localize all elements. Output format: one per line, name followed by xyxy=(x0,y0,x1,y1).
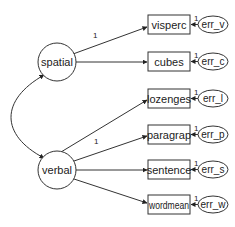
latent-spatial[interactable]: spatial xyxy=(38,43,76,81)
error-err_l[interactable]: 1 err_l xyxy=(191,88,228,107)
observed-paragrap-label: paragrap xyxy=(147,129,191,141)
latent-spatial-label: spatial xyxy=(41,56,73,68)
error-label-err_s: err_s xyxy=(202,164,225,175)
path-verbal-wordmean xyxy=(74,179,147,203)
error-err_v[interactable]: 1 err_v xyxy=(191,14,228,33)
latent-verbal[interactable]: verbal xyxy=(38,151,76,189)
error-label-err_w: err_w xyxy=(200,199,226,210)
observed-visperc-label: visperc xyxy=(152,19,187,31)
error-label-err_p: err_p xyxy=(201,129,225,140)
latent-verbal-label: verbal xyxy=(42,164,72,176)
loading-label-visperc: 1 xyxy=(93,31,98,40)
path-verbal-paragrap xyxy=(74,136,147,161)
observed-visperc[interactable]: visperc xyxy=(148,15,190,34)
path-spatial-visperc xyxy=(73,27,147,54)
observed-cubes[interactable]: cubes xyxy=(148,52,190,71)
observed-wordmean-label: wordmean xyxy=(148,199,189,211)
sem-path-diagram: 1 1 spatial verbal visperc cubes lozenge… xyxy=(0,0,235,227)
loading-label-paragrap: 1 xyxy=(94,137,99,146)
observed-wordmean[interactable]: wordmean xyxy=(148,195,190,214)
observed-lozenges[interactable]: lozenges xyxy=(147,89,192,108)
error-err_w[interactable]: 1 err_w xyxy=(191,194,228,213)
error-err_p[interactable]: 1 err_p xyxy=(191,124,228,143)
observed-lozenges-label: lozenges xyxy=(147,93,192,105)
observed-cubes-label: cubes xyxy=(154,56,184,68)
covariance-arc-spatial-verbal xyxy=(11,75,44,158)
observed-sentence-label: sentence xyxy=(147,164,192,176)
observed-paragrap[interactable]: paragrap xyxy=(147,125,191,144)
error-label-err_c: err_c xyxy=(202,56,225,67)
observed-sentence[interactable]: sentence xyxy=(147,160,192,179)
error-err_s[interactable]: 1 err_s xyxy=(191,159,228,178)
path-verbal-lozenges xyxy=(61,100,147,152)
error-err_c[interactable]: 1 err_c xyxy=(191,51,228,70)
error-label-err_v: err_v xyxy=(202,19,225,30)
error-label-err_l: err_l xyxy=(203,93,223,104)
